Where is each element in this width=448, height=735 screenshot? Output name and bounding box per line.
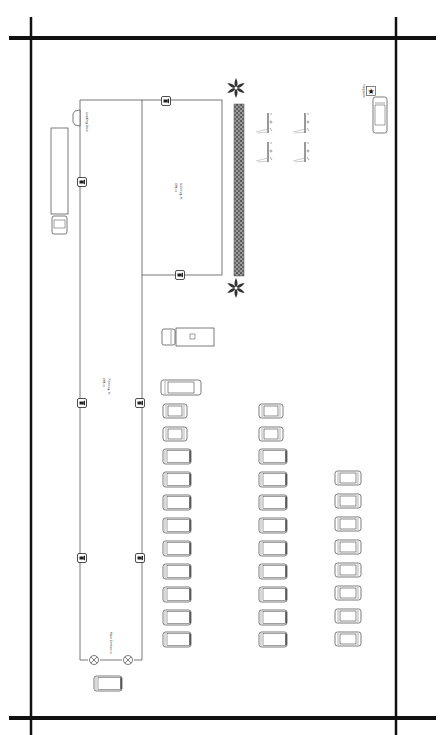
security-camera-icon bbox=[176, 271, 185, 280]
loading-dock-icon bbox=[73, 110, 80, 126]
office-b-area-label: 7000 sq. ft. bbox=[107, 378, 111, 395]
van-icon bbox=[259, 495, 287, 510]
palm-tree-icon bbox=[227, 78, 246, 98]
car-icon bbox=[335, 494, 361, 508]
svg-text:★: ★ bbox=[367, 87, 374, 96]
van-icon bbox=[163, 449, 191, 464]
palm-tree-icon bbox=[227, 278, 246, 298]
light-pole-icon bbox=[256, 113, 272, 133]
van-icon bbox=[259, 610, 287, 625]
office-b-name-label: Office bbox=[102, 378, 106, 387]
flag-pole-icon: ★ bbox=[367, 87, 376, 97]
loading-dock bbox=[73, 110, 80, 126]
hedge-row bbox=[234, 104, 244, 276]
limousine-icon bbox=[161, 380, 201, 395]
loading-dock-label: Loading Dock bbox=[85, 112, 89, 133]
van-icon bbox=[163, 518, 191, 533]
security-camera-icon bbox=[162, 97, 171, 106]
van-icon bbox=[259, 541, 287, 556]
site-plan-diagram: ★ Loading Dock Main Entrance Flag pole O… bbox=[0, 0, 448, 735]
car-icon bbox=[373, 97, 387, 133]
light-pole-icon bbox=[293, 142, 309, 162]
van-icon bbox=[94, 676, 122, 691]
office-b-right-wall bbox=[134, 275, 142, 660]
trucks bbox=[51, 128, 214, 346]
car-icon bbox=[335, 563, 361, 577]
van-icon bbox=[163, 632, 191, 647]
security-camera-icon bbox=[136, 554, 145, 563]
van-icon bbox=[259, 632, 287, 647]
office-a-name-label: Office bbox=[174, 183, 178, 192]
van-icon bbox=[259, 518, 287, 533]
light-poles bbox=[256, 113, 309, 162]
security-camera-icon bbox=[136, 399, 145, 408]
flag-pole-label: Flag pole bbox=[362, 84, 366, 98]
security-camera-icon bbox=[78, 399, 87, 408]
light-pole-icon bbox=[256, 142, 272, 162]
van-icon bbox=[163, 587, 191, 602]
text-labels: Loading Dock Main Entrance Flag pole Off… bbox=[85, 84, 366, 654]
car-icon bbox=[335, 471, 361, 485]
box-truck-icon bbox=[162, 328, 214, 346]
flag-pole: ★ bbox=[367, 87, 376, 97]
car-icon bbox=[335, 586, 361, 600]
car-icon bbox=[259, 404, 283, 418]
security-camera-icon bbox=[78, 178, 87, 187]
van-icon bbox=[163, 541, 191, 556]
car-icon bbox=[259, 427, 283, 441]
entrance-light-icon bbox=[124, 656, 133, 665]
car-icon bbox=[335, 609, 361, 623]
hedge-strip bbox=[234, 104, 244, 276]
van-icon bbox=[163, 564, 191, 579]
van-icon bbox=[163, 610, 191, 625]
car-icon bbox=[335, 517, 361, 531]
security-camera-icon bbox=[78, 554, 87, 563]
main-entrance-label: Main Entrance bbox=[109, 632, 113, 654]
van-icon bbox=[163, 495, 191, 510]
car-icon bbox=[163, 404, 187, 418]
car-icon bbox=[335, 632, 361, 646]
van-icon bbox=[259, 472, 287, 487]
van-icon bbox=[163, 472, 191, 487]
car-icon bbox=[335, 540, 361, 554]
van-icon bbox=[259, 587, 287, 602]
van-icon bbox=[259, 564, 287, 579]
entrance-light-icon bbox=[90, 656, 99, 665]
page-border-frame bbox=[9, 17, 436, 735]
building-walls bbox=[80, 100, 222, 660]
van-icon bbox=[259, 449, 287, 464]
car-icon bbox=[163, 427, 187, 441]
light-pole-icon bbox=[293, 113, 309, 133]
semi-truck-icon bbox=[51, 128, 68, 234]
office-a-area-label: 5000 sq. ft. bbox=[179, 183, 183, 200]
